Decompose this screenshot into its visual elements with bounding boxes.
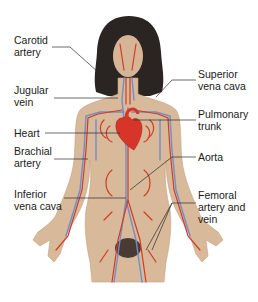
label-pulmonary-trunk: Pulmonary trunk — [198, 108, 248, 132]
leader-line-carotid-artery — [52, 47, 98, 72]
label-femoral-artery-and-vein: Femoral artery and vein — [198, 189, 245, 225]
label-aorta: Aorta — [198, 151, 223, 163]
label-superior-vena-cava: Superior vena cava — [198, 68, 246, 92]
face — [113, 35, 143, 77]
circulatory-system-diagram: Carotid artery Jugular vein Heart Brachi… — [0, 0, 258, 302]
label-carotid-artery: Carotid artery — [14, 34, 48, 58]
label-inferior-vena-cava: Inferior vena cava — [14, 188, 62, 212]
label-heart: Heart — [14, 127, 40, 139]
label-jugular-vein: Jugular vein — [14, 84, 48, 108]
label-brachial-artery: Brachial artery — [14, 145, 52, 169]
